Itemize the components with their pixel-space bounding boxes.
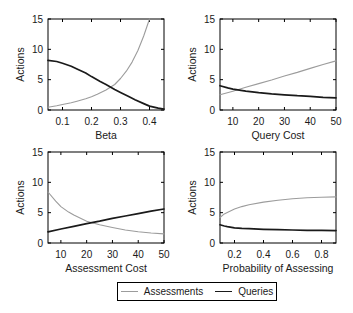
x-tick-label: 40 [305,116,317,127]
x-tick-label: 10 [55,249,67,260]
x-tick-label: 0.1 [56,116,70,127]
x-axis-title: Beta [95,129,117,141]
legend: Assessments Queries [117,282,277,301]
figure-canvas: 0.10.20.30.4051015BetaActions10203040500… [0,0,353,313]
queries-line-swatch [215,291,232,292]
y-tick-label: 10 [32,177,44,188]
x-tick-label: 0.6 [286,249,300,260]
subplot-assessment-cost: 1020304050051015Assessment CostActions [14,147,170,275]
x-tick-label: 0.4 [257,249,271,260]
y-tick-label: 15 [32,147,44,158]
series-line-queries [220,86,336,98]
y-tick-label: 5 [37,74,43,85]
y-tick-label: 10 [204,177,216,188]
subplot-probability-of-assessing: 0.20.40.60.8051015Probability of Assessi… [186,147,336,275]
series-line-queries [48,209,164,232]
x-tick-label: 50 [330,116,342,127]
y-axis-title: Actions [186,47,198,81]
y-axis-title: Actions [14,47,26,81]
y-tick-label: 0 [209,105,215,116]
legend-item-queries: Queries [215,286,273,297]
y-axis-title: Actions [14,180,26,214]
x-tick-label: 50 [158,249,170,260]
series-line-queries [220,225,336,231]
x-tick-label: 40 [133,249,145,260]
subplots-svg: 0.10.20.30.4051015BetaActions10203040500… [0,0,353,313]
y-tick-label: 5 [209,74,215,85]
x-tick-label: 20 [253,116,265,127]
y-tick-label: 10 [204,44,216,55]
y-tick-label: 15 [204,14,216,25]
legend-label-assessments: Assessments [144,286,203,297]
x-tick-label: 20 [81,249,93,260]
x-tick-label: 0.2 [85,116,99,127]
x-tick-label: 0.8 [315,249,329,260]
x-tick-label: 30 [279,116,291,127]
y-tick-label: 5 [209,207,215,218]
x-tick-label: 10 [227,116,239,127]
legend-label-queries: Queries [238,286,273,297]
x-tick-label: 30 [107,249,119,260]
axes-box [48,152,164,243]
y-tick-label: 15 [32,14,44,25]
subplot-query-cost: 1020304050051015Query CostActions [186,14,342,142]
x-axis-title: Probability of Assessing [223,262,334,274]
series-line-queries [48,60,164,109]
x-tick-label: 0.4 [143,116,157,127]
assessments-line-swatch [121,291,138,292]
y-axis-title: Actions [186,180,198,214]
x-axis-title: Assessment Cost [65,262,147,274]
y-tick-label: 0 [209,238,215,249]
x-tick-label: 0.2 [228,249,242,260]
y-tick-label: 15 [204,147,216,158]
y-tick-label: 10 [32,44,44,55]
x-tick-label: 0.3 [114,116,128,127]
subplot-beta: 0.10.20.30.4051015BetaActions [14,14,164,142]
y-tick-label: 0 [37,238,43,249]
series-line-assessments [220,197,336,218]
legend-item-assessments: Assessments [121,286,203,297]
y-tick-label: 5 [37,207,43,218]
x-axis-title: Query Cost [251,129,304,141]
y-tick-label: 0 [37,105,43,116]
